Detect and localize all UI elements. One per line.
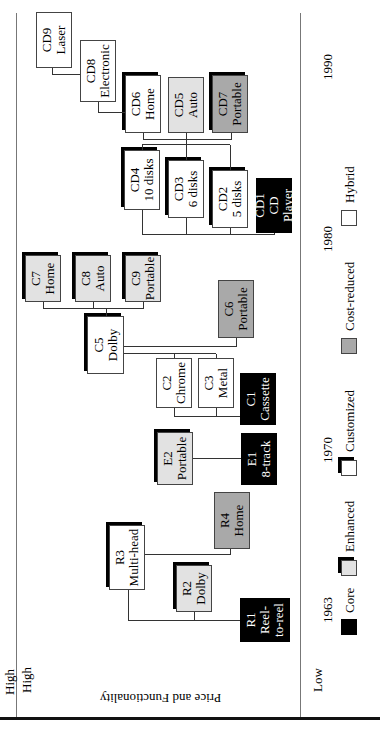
legend-swatch-enhanced (341, 560, 357, 576)
node-C3: C3Metal (198, 358, 234, 408)
year-1980: 1980 (320, 226, 336, 252)
node-CD7: CD7Portable (212, 75, 248, 133)
edge-CD8-CD9-v (52, 74, 80, 75)
product-family-diagram: High 1963 1970 1980 1990 R1Reel-to-reel … (0, 0, 380, 735)
node-C6: C6Portable (218, 280, 254, 338)
axis-high-label-screen: High (19, 667, 35, 693)
edge-R2-link (194, 612, 195, 621)
node-CD6: CD6Home (125, 75, 161, 133)
year-1963: 1963 (320, 597, 336, 623)
node-CD1: CD1CDPlayer (256, 178, 292, 233)
edge-R3-R4-h (230, 549, 231, 555)
legend-swatch-customized (341, 460, 357, 476)
edge-C5-right-1 (124, 353, 174, 354)
edge-CD2-up (230, 145, 231, 170)
node-CD5: CD5Auto (168, 77, 204, 133)
page-bottom-rule (0, 717, 380, 720)
edge-C8 (93, 302, 94, 309)
node-C2: C2Chrome (156, 358, 192, 408)
node-C8: C8Auto (75, 255, 111, 302)
frame-line-top (16, 13, 17, 718)
edge-CD1-trunk (142, 234, 274, 235)
node-CD9: CD9Laser (36, 12, 72, 68)
edge-C2-up (174, 354, 175, 358)
node-C7: C7Home (25, 255, 61, 302)
edge-CD4-up (142, 145, 143, 150)
edge-C1-trunk (174, 416, 240, 417)
edge-CD6-CD8-h (98, 102, 99, 113)
edge-C3-up (216, 354, 217, 358)
node-R1: R1Reel-to-reel (240, 598, 290, 642)
edge-CD4 (142, 210, 143, 235)
edge-C23-top (174, 353, 216, 354)
year-1970: 1970 (320, 437, 336, 463)
frame-line-bottom (300, 13, 301, 718)
edge-CD3 (186, 218, 187, 235)
edge-R1-trunk (128, 620, 240, 621)
edge-C7 (43, 302, 44, 309)
edge-CD2 (230, 228, 231, 235)
node-CD2: CD25 disks (212, 170, 248, 228)
axis-price-functionality-label: Price and Functionality (100, 690, 221, 706)
edge-CD7-in (231, 133, 232, 140)
legend-label-hybrid: Hybrid (342, 166, 358, 203)
edge-E1-E2 (193, 458, 241, 459)
node-R3: R3Multi-head (109, 525, 145, 590)
edge-CD5-in (186, 133, 187, 145)
node-CD4: CD410 disks (124, 150, 160, 210)
edge-R3-R4-v (145, 554, 230, 555)
node-CD8: CD8Electronic (80, 40, 116, 102)
edge-C5-C6 (236, 338, 237, 347)
axis-high-label: High (2, 669, 18, 695)
edge-CD6-CD8-v (98, 112, 125, 113)
edge-CD8-CD9-h (52, 68, 53, 75)
edge-C5-C8 (106, 309, 107, 316)
axis-low-label-screen: Low (310, 668, 326, 692)
node-C5: C5Dolby (87, 316, 124, 374)
node-R4: R4Home (214, 492, 250, 549)
node-R2: R2Dolby (176, 565, 212, 612)
edge-C9 (143, 302, 144, 309)
legend-label-enhanced: Enhanced (342, 501, 358, 552)
node-C1: C1Cassette (240, 373, 276, 425)
node-C9: C9Portable (125, 255, 161, 302)
year-1990: 1990 (320, 54, 336, 80)
legend-swatch-core (341, 619, 357, 635)
node-CD3: CD36 disks (168, 160, 204, 218)
node-E1: E18-track (241, 433, 277, 485)
edge-C5-right-2 (124, 346, 236, 347)
legend-swatch-costreduced (341, 338, 357, 354)
edge-CD1 (274, 233, 275, 235)
edge-C1-C2 (174, 408, 175, 417)
legend-swatch-hybrid (341, 210, 357, 226)
edge-CD6-in (143, 133, 144, 140)
legend-label-core: Core (342, 588, 358, 613)
edge-C1-C3 (216, 408, 217, 417)
legend-label-costreduced: Cost-reduced (342, 262, 358, 331)
edge-R3-down (128, 590, 129, 621)
node-E2: E2Portable (157, 432, 193, 485)
legend-label-customized: Customized (342, 390, 358, 452)
